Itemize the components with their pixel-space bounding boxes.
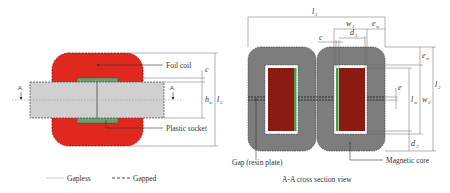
svg-text:w: w xyxy=(209,100,213,105)
svg-text:w: w xyxy=(376,24,380,29)
svg-text:3: 3 xyxy=(220,100,223,105)
foil-coil-label: Foil coil xyxy=(166,61,191,70)
transformer-figure: A A Foil coil Plastic socket c h w l 3 xyxy=(0,0,450,193)
plastic-socket-label: Plastic socket xyxy=(166,124,208,133)
svg-text:2: 2 xyxy=(428,100,431,105)
legend-gapped: Gapped xyxy=(133,174,157,183)
legend-gapless: Gapless xyxy=(67,174,91,183)
winding-left xyxy=(268,68,294,131)
svg-text:1: 1 xyxy=(315,12,318,17)
svg-text:1: 1 xyxy=(355,33,358,38)
dim-c-right: c xyxy=(319,33,323,42)
legend: Gapless Gapped xyxy=(46,174,157,183)
gap-label: Gap (resin plate) xyxy=(232,158,283,167)
socket-left xyxy=(294,68,297,131)
svg-text:2: 2 xyxy=(438,85,441,90)
cross-section-caption: A-A cross section view xyxy=(282,175,352,184)
svg-text:w: w xyxy=(426,56,430,61)
side-view: A A Foil coil Plastic socket c h w l 3 xyxy=(12,53,223,146)
magnetic-core-label: Magnetic core xyxy=(386,156,430,165)
section-marker-right: A xyxy=(170,85,174,91)
svg-text:w: w xyxy=(414,100,418,105)
cross-section-view: Gap (resin plate) Magnetic core l 1 w 1 … xyxy=(232,7,441,184)
dim-e: e xyxy=(398,83,402,92)
svg-text:2: 2 xyxy=(416,144,419,149)
socket-right xyxy=(336,68,339,131)
section-marker-left: A xyxy=(18,85,22,91)
dim-c-left: c xyxy=(205,65,209,74)
winding-right xyxy=(339,68,365,131)
